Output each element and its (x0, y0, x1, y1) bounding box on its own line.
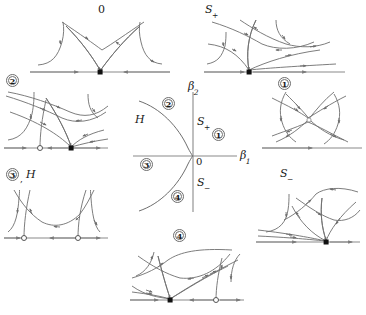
branch-s-plus-label: S+ (197, 116, 211, 130)
region-badge-2: 2 (162, 97, 175, 110)
equilibrium-node (98, 70, 103, 75)
panel-label-region-3: 3 (6, 168, 19, 181)
panel-label-region-1: 1 (278, 77, 291, 90)
equilibrium-node (247, 70, 252, 75)
equilibrium-saddle (307, 118, 311, 122)
region-badge-4: 4 (171, 190, 184, 203)
equilibrium-saddle (76, 236, 81, 241)
branch-s-minus-label: S− (197, 177, 211, 191)
panel-region3-graphics (4, 190, 108, 241)
panel-region2-graphics (4, 92, 108, 151)
equilibrium-saddle (214, 298, 219, 303)
equilibrium-node (168, 298, 173, 303)
central-parameter-plane (133, 92, 237, 212)
beta1-axis-label: β1 (240, 150, 251, 164)
panel-zero-graphics (30, 22, 170, 75)
region-badge-3: 3 (140, 158, 153, 171)
equilibrium-node (69, 146, 74, 151)
panel-label-region-3-separator: , (20, 175, 23, 184)
panel-label-zero: 0 (98, 4, 105, 15)
panel-label-region-4: 4 (173, 229, 186, 242)
equilibrium-node (324, 240, 329, 245)
figure-canvas (0, 0, 366, 315)
beta2-axis-label: β2 (188, 81, 199, 95)
panel-s-minus-graphics (256, 188, 360, 244)
panel-region4-graphics (130, 249, 244, 302)
region-badge-1: 1 (212, 128, 225, 141)
panel-label-s-minus: S− (280, 168, 294, 182)
panel-region1-graphics (262, 92, 362, 148)
bifurcation-figure: 0 S+ 2 1 3 , H S− 4 β2 β1 0 H S+ S− 1 2 … (0, 0, 366, 315)
curve-H-label: H (135, 114, 145, 125)
panel-label-s-plus: S+ (205, 4, 219, 18)
origin-label: 0 (196, 157, 202, 167)
panel-label-region-2: 2 (6, 74, 19, 87)
equilibrium-saddle (38, 146, 43, 151)
panel-label-region-3-hopf: H (26, 169, 36, 180)
panel-s-plus-graphics (204, 20, 345, 75)
equilibrium-saddle (22, 236, 27, 241)
